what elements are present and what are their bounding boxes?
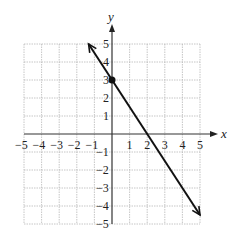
x-tick-label: 2 xyxy=(144,138,150,152)
x-axis-label: x xyxy=(220,126,227,141)
y-tick-label: 1 xyxy=(103,109,109,123)
x-tick-label: 5 xyxy=(197,138,203,152)
y-tick-label: −2 xyxy=(96,163,109,177)
y-tick-label: 2 xyxy=(103,91,109,105)
y-tick-label: 5 xyxy=(103,37,109,51)
y-tick-label: −4 xyxy=(96,199,109,213)
y-intercept-point xyxy=(109,77,116,84)
y-tick-label: −1 xyxy=(96,145,109,159)
y-tick-label: −5 xyxy=(96,217,109,231)
x-tick-label: −2 xyxy=(68,138,81,152)
coordinate-plane: xy−5−4−3−2−11234554321−1−2−3−4−5 xyxy=(0,0,229,238)
x-tick-label: 4 xyxy=(179,138,185,152)
x-axis-arrow-icon xyxy=(210,131,218,137)
y-axis-label: y xyxy=(106,9,114,24)
x-tick-label: 1 xyxy=(127,138,133,152)
y-axis-arrow-icon xyxy=(109,24,115,32)
x-tick-label: −3 xyxy=(50,138,63,152)
x-tick-label: −4 xyxy=(33,138,46,152)
x-tick-label: −5 xyxy=(15,138,28,152)
x-tick-label: 3 xyxy=(162,138,168,152)
y-tick-label: −3 xyxy=(96,181,109,195)
